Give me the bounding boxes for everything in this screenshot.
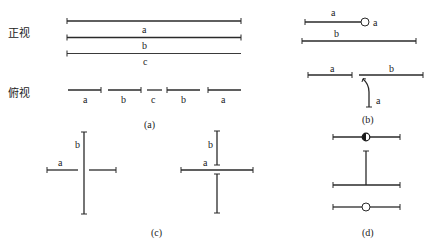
figure-canvas: 正视 a b c 俯视 a b bbox=[0, 0, 431, 250]
top-view-label: 俯视 bbox=[8, 86, 30, 100]
cross-right-horizontal bbox=[181, 167, 253, 173]
line-a-with-circle bbox=[305, 18, 369, 26]
front-view-label: 正视 bbox=[8, 26, 30, 40]
curve-label: a bbox=[376, 95, 381, 106]
line-a-label: a bbox=[331, 7, 336, 18]
top-segment-1-label: a bbox=[83, 94, 88, 105]
cross-left-horizontal-label: a bbox=[58, 157, 63, 168]
panel-a: 正视 a b c 俯视 a b bbox=[8, 18, 241, 131]
front-line-b-label: b bbox=[142, 40, 147, 51]
cross-left-vertical bbox=[81, 132, 87, 214]
open-circle-icon bbox=[361, 18, 369, 26]
front-line-a-label: a bbox=[142, 24, 147, 35]
panel-b-caption: (b) bbox=[362, 114, 374, 126]
top-segment-2 bbox=[108, 87, 141, 93]
top-segment-2-label: b bbox=[121, 94, 126, 105]
t-junction bbox=[333, 151, 400, 188]
top-segment-4 bbox=[167, 87, 200, 93]
curved-line-a bbox=[362, 79, 372, 108]
line-with-half-circle bbox=[333, 133, 400, 141]
cross-right-vertical-label: b bbox=[208, 139, 213, 150]
top-segment-1 bbox=[68, 87, 101, 93]
cross-right-horizontal-label: a bbox=[203, 157, 208, 168]
front-line-b bbox=[67, 35, 241, 41]
panel-d: (d) bbox=[333, 133, 400, 239]
open-circle-icon bbox=[362, 203, 370, 211]
cross-left-vertical-label: b bbox=[75, 139, 80, 150]
front-line-c bbox=[67, 51, 241, 57]
top-segment-3-label: c bbox=[151, 94, 156, 105]
front-line-a bbox=[67, 18, 241, 24]
line-b-label: b bbox=[334, 28, 339, 39]
top-segment-5 bbox=[208, 87, 241, 93]
panel-b: a a b a b a (b) bbox=[302, 7, 423, 126]
line-with-open-circle bbox=[333, 203, 400, 211]
line-b bbox=[302, 38, 416, 44]
top-segment-5-label: a bbox=[221, 94, 226, 105]
cross-right-vertical bbox=[214, 131, 220, 213]
panel-c-caption: (c) bbox=[151, 227, 162, 239]
panel-d-caption: (d) bbox=[362, 227, 374, 239]
lower-right-label: b bbox=[389, 63, 394, 74]
top-segment-4-label: b bbox=[181, 94, 186, 105]
front-line-c-label: c bbox=[143, 56, 148, 67]
panel-a-caption: (a) bbox=[144, 119, 155, 131]
lower-left-label: a bbox=[330, 63, 335, 74]
circle-label: a bbox=[373, 17, 378, 28]
panel-c: b a a b (c) bbox=[47, 131, 253, 239]
